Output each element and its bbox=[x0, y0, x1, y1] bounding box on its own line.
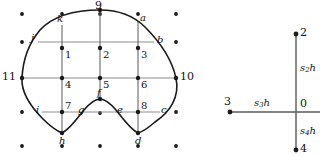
edge-marker-dots bbox=[20, 8, 178, 80]
label-stencil-node-2: 2 bbox=[300, 27, 307, 38]
boundary-intersection-dots bbox=[60, 97, 140, 135]
label-point-f: f bbox=[97, 88, 101, 98]
label-stencil-node-4: 4 bbox=[300, 143, 307, 154]
label-point-i: i bbox=[36, 105, 39, 115]
node-dot-7 bbox=[60, 110, 64, 114]
label-node-11: 11 bbox=[2, 71, 16, 82]
node-dot-6 bbox=[136, 76, 140, 80]
label-node-2: 2 bbox=[103, 50, 109, 60]
label-node-7: 7 bbox=[65, 101, 71, 111]
node-dot-11 bbox=[20, 76, 24, 80]
label-node-10: 10 bbox=[180, 71, 194, 82]
label-spacing-s4h: s4h bbox=[300, 126, 316, 137]
label-node-1: 1 bbox=[65, 50, 71, 60]
label-node-6: 6 bbox=[141, 80, 147, 90]
label-node-3: 3 bbox=[141, 50, 147, 60]
lattice-dot bbox=[174, 110, 178, 114]
label-point-g: g bbox=[78, 105, 84, 115]
lattice-dot bbox=[20, 12, 24, 16]
lattice-dot bbox=[20, 40, 24, 44]
label-spacing-s2h: s2h bbox=[300, 63, 316, 74]
stencil-dot-4 bbox=[294, 148, 299, 153]
label-point-d: d bbox=[135, 136, 141, 146]
lattice-dot bbox=[98, 144, 102, 148]
stencil-dot-2 bbox=[294, 32, 299, 37]
lattice-dot bbox=[174, 144, 178, 148]
h-unit-up: h bbox=[309, 62, 315, 73]
label-point-j: j bbox=[31, 33, 34, 43]
node-dot-3 bbox=[136, 46, 140, 50]
node-dot-4 bbox=[60, 76, 64, 80]
label-spacing-s3h: s3h bbox=[254, 98, 270, 109]
lattice-dot bbox=[20, 144, 24, 148]
label-point-a: a bbox=[140, 13, 146, 23]
label-node-4: 4 bbox=[65, 80, 71, 90]
node-dot-10 bbox=[174, 76, 178, 80]
label-stencil-node-0: 0 bbox=[300, 98, 307, 109]
background-dot-lattice bbox=[20, 12, 178, 148]
h-unit-down: h bbox=[309, 125, 315, 136]
label-stencil-node-3: 3 bbox=[224, 96, 231, 107]
node-dot-8 bbox=[136, 110, 140, 114]
figure-container: 9 10 11 1 2 3 4 5 6 7 8 a b c d e f g h … bbox=[0, 0, 320, 156]
label-point-e: e bbox=[117, 105, 123, 115]
figure-canvas bbox=[0, 0, 320, 156]
stencil-dot-3 bbox=[228, 110, 233, 115]
node-dot-1 bbox=[60, 46, 64, 50]
h-unit-left: h bbox=[263, 97, 269, 108]
label-node-9: 9 bbox=[95, 0, 102, 11]
label-point-h: h bbox=[59, 136, 65, 146]
label-point-b: b bbox=[157, 35, 163, 45]
lattice-dot bbox=[20, 110, 24, 114]
label-point-k: k bbox=[57, 14, 63, 24]
lattice-dot bbox=[174, 40, 178, 44]
label-node-5: 5 bbox=[103, 80, 109, 90]
lattice-dot bbox=[174, 12, 178, 16]
node-dot-2 bbox=[98, 46, 102, 50]
stencil-node-dots bbox=[228, 32, 299, 153]
label-point-c: c bbox=[161, 105, 167, 115]
label-node-8: 8 bbox=[141, 101, 147, 111]
node-dot-5 bbox=[98, 76, 102, 80]
